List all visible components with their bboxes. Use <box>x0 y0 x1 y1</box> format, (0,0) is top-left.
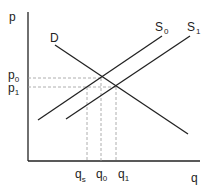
q0-label: q0 <box>96 167 108 183</box>
s1-label: S1 <box>187 20 201 36</box>
demand-curve <box>55 45 188 134</box>
qs-label: qs <box>75 167 86 184</box>
x-axis-label: q <box>191 171 198 185</box>
supply-curve-s1 <box>66 36 190 119</box>
supply-demand-diagram: p q D S0 S1 p0 p1 qs q0 q1 <box>0 0 215 192</box>
supply-curve-s0 <box>38 36 162 120</box>
q1-label: q1 <box>118 167 130 183</box>
demand-label: D <box>50 31 59 45</box>
y-axis-label: p <box>9 10 16 24</box>
s0-label: S0 <box>155 20 169 36</box>
